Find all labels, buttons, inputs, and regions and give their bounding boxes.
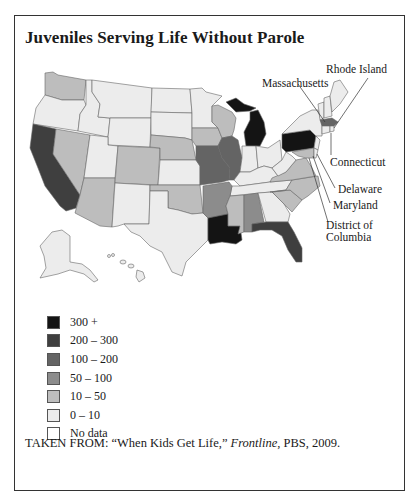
state-colorado — [115, 146, 160, 185]
state-iowa — [192, 128, 222, 146]
states — [30, 72, 348, 282]
state-washington — [45, 72, 86, 100]
state-north-dakota — [151, 88, 192, 113]
state-wyoming — [108, 118, 151, 147]
state-delaware — [314, 148, 318, 158]
state-rhode-island — [330, 126, 334, 132]
state-alaska — [40, 230, 98, 282]
state-michigan-upper — [226, 98, 256, 112]
label-rhode-island: Rhode Island — [326, 63, 387, 75]
label-connecticut: Connecticut — [330, 156, 386, 168]
state-michigan — [244, 110, 266, 146]
label-maryland: Maryland — [333, 199, 378, 212]
label-dc-line1: District of — [326, 219, 373, 231]
label-dc-line2: Columbia — [326, 231, 371, 243]
us-map: Rhode Island Massachusetts Connecticut D… — [0, 0, 420, 503]
state-hawaii — [108, 254, 146, 283]
label-massachusetts: Massachusetts — [262, 77, 329, 89]
state-kansas — [158, 160, 200, 185]
state-connecticut — [322, 126, 330, 134]
state-new-mexico — [112, 183, 150, 227]
state-florida — [252, 222, 302, 262]
label-delaware: Delaware — [338, 183, 382, 195]
state-montana — [92, 80, 152, 118]
state-indiana — [240, 146, 258, 172]
state-maine — [330, 80, 348, 112]
